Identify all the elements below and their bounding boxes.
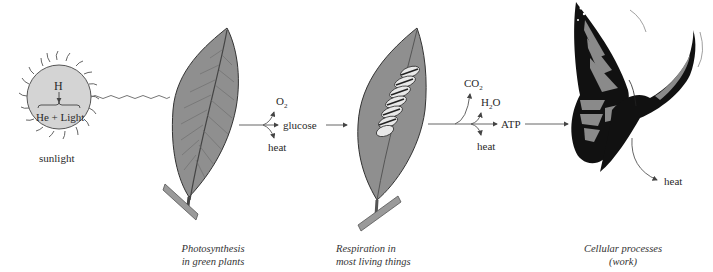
leaf-caterpillar-icon xyxy=(358,28,426,231)
sun-icon xyxy=(19,51,99,139)
co2-label: CO2 xyxy=(464,77,483,91)
sun-input-label: H xyxy=(54,80,63,92)
leaf-icon xyxy=(163,28,238,220)
sun-caption: sunlight xyxy=(39,152,74,164)
oxygen-label: O2 xyxy=(276,95,287,109)
energy-flow-diagram: H He + Light sunlight O2 heat glucose CO… xyxy=(0,0,713,272)
water-label: H2O xyxy=(481,96,500,110)
diagram-graphics xyxy=(0,0,713,272)
atp-label: ATP xyxy=(501,118,521,130)
heat-label-1: heat xyxy=(268,141,286,153)
heat-label-2: heat xyxy=(477,140,495,152)
sun-output-label: He + Light xyxy=(36,111,84,123)
butterfly-icon xyxy=(571,2,702,172)
glucose-label: glucose xyxy=(283,119,317,131)
light-wave xyxy=(91,96,170,99)
heat-label-3: heat xyxy=(664,175,682,187)
caption-cellular: Cellular processes (work) xyxy=(563,242,683,268)
caption-respiration: Respiration in most living things xyxy=(336,242,446,268)
caption-photosynthesis: Photosynthesis in green plants xyxy=(158,242,268,268)
